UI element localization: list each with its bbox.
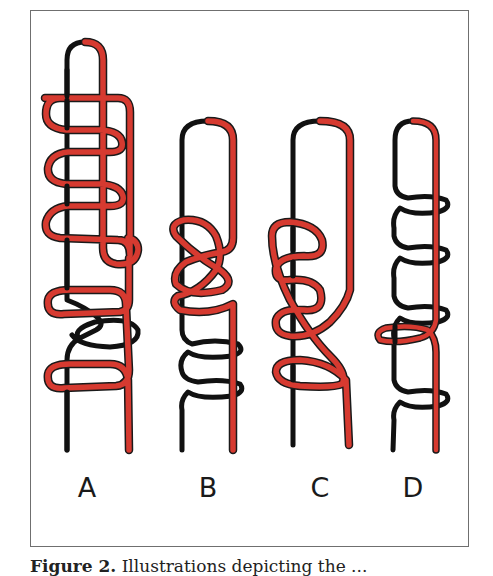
panel-label-c: C: [311, 474, 330, 501]
panel-d-knot: [378, 121, 448, 450]
panel-a-knot: [45, 42, 138, 450]
panel-c-knot: [272, 121, 350, 445]
panel-label-d: D: [403, 474, 424, 501]
figure-caption: Figure 2. Illustrations depicting the ..…: [30, 556, 367, 576]
figure-number: Figure 2.: [30, 556, 116, 576]
figure-caption-text: Illustrations depicting the ...: [122, 556, 368, 576]
panel-label-a: A: [78, 474, 96, 501]
panel-b-knot: [173, 121, 241, 450]
panel-label-b: B: [199, 474, 218, 501]
